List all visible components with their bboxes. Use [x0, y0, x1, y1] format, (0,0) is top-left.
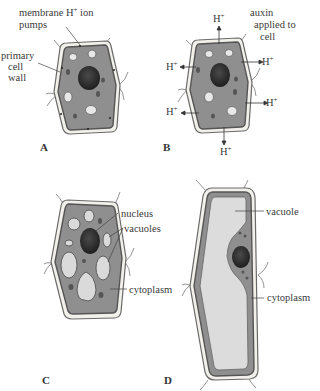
- vacuole: [68, 218, 80, 230]
- vacuole: [86, 106, 97, 115]
- cell-wall-label-line2: cell: [8, 61, 23, 72]
- nucleus: [210, 63, 230, 87]
- membrane-pumps-label: membrane H+ ion: [19, 7, 94, 18]
- nucleus: [232, 246, 250, 268]
- membrane-pumps-label-line2: pumps: [19, 19, 47, 30]
- cell-a: [38, 27, 128, 134]
- panel-label-b: B: [163, 141, 170, 153]
- cell-wall-label-line1: primary: [1, 50, 34, 61]
- vacuole: [227, 107, 237, 116]
- vacuole: [88, 50, 96, 58]
- auxin-label-line3: cell: [260, 31, 275, 42]
- cell-d: [182, 180, 268, 390]
- cytoplasm-label-d: cytoplasm: [267, 292, 310, 303]
- vacuole: [84, 210, 94, 222]
- vacuole: [96, 256, 110, 280]
- proton-label: H+: [213, 13, 225, 24]
- vacuole: [205, 51, 213, 58]
- vacuole: [205, 92, 214, 102]
- proton-label: H+: [220, 146, 232, 157]
- vacuole: [103, 233, 111, 247]
- auxin-label-line1: auxin: [250, 7, 273, 18]
- cytoplasm-label-c: cytoplasm: [129, 284, 172, 295]
- vacuoles-label: vacuoles: [124, 223, 161, 234]
- vacuole: [69, 54, 77, 61]
- panel-label-c: C: [42, 374, 50, 386]
- nucleus-label: nucleus: [121, 208, 153, 219]
- nucleus: [78, 66, 100, 90]
- cell-wall-label-line3: wall: [8, 72, 26, 83]
- panel-label-d: D: [164, 374, 172, 386]
- vacuole: [65, 240, 73, 246]
- proton-label: H+: [166, 61, 178, 72]
- proton-label: H+: [166, 106, 178, 117]
- auxin-label-line2: applied to: [254, 19, 296, 30]
- cell-b: [178, 26, 268, 145]
- vacuole-label: vacuole: [266, 206, 299, 217]
- vacuole: [225, 50, 233, 57]
- proton-label: H+: [262, 56, 274, 67]
- vacuole: [64, 92, 72, 102]
- panel-label-a: A: [40, 141, 48, 153]
- vacuole: [61, 252, 77, 278]
- nucleus: [80, 228, 100, 254]
- proton-label: H+: [266, 97, 278, 108]
